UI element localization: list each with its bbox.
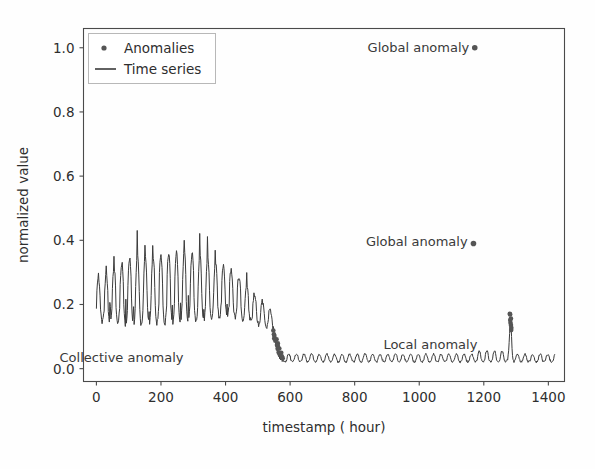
anomaly-point-local-cluster	[509, 328, 514, 333]
chart-figure: 0200400600800100012001400 0.00.20.40.60.…	[0, 0, 595, 469]
annotation-global-anomaly-mid: Global anomaly	[366, 234, 468, 249]
y-tick-label-0.6: 0.6	[53, 168, 74, 184]
x-axis-label: timestamp ( hour)	[263, 419, 386, 435]
annotation-global-anomaly-top: Global anomaly	[368, 40, 470, 55]
anomaly-point-global-mid	[471, 241, 477, 247]
legend-label-time-series: Time series	[123, 61, 201, 77]
x-tick-label-1200: 1200	[467, 389, 501, 405]
x-tick-label-1400: 1400	[531, 389, 565, 405]
legend-label-anomalies: Anomalies	[124, 40, 194, 56]
anomaly-timeseries-chart: 0200400600800100012001400 0.00.20.40.60.…	[0, 0, 595, 469]
y-tick-label-0.8: 0.8	[53, 104, 74, 120]
y-tick-label-0.2: 0.2	[53, 296, 74, 312]
x-tick-label-600: 600	[277, 389, 303, 405]
legend-marker-anomalies-icon	[101, 45, 106, 50]
chart-legend[interactable]: Anomalies Time series	[89, 34, 216, 84]
anomaly-point-collective-cluster	[277, 346, 282, 351]
y-tick-label-0.4: 0.4	[53, 232, 74, 248]
annotation-collective-anomaly: Collective anomaly	[60, 350, 184, 365]
x-tick-label-1000: 1000	[402, 389, 436, 405]
x-tick-label-0: 0	[92, 389, 101, 405]
anomaly-point-collective-cluster	[280, 356, 285, 361]
y-tick-label-1.0: 1.0	[53, 40, 74, 56]
annotation-local-anomaly: Local anomaly	[383, 337, 477, 352]
anomaly-point-local-cluster	[508, 312, 513, 317]
x-tick-label-200: 200	[148, 389, 174, 405]
x-tick-label-400: 400	[213, 389, 239, 405]
anomaly-point-global-top	[472, 45, 478, 51]
x-tick-label-800: 800	[342, 389, 368, 405]
y-axis-label: normalized value	[15, 147, 31, 263]
